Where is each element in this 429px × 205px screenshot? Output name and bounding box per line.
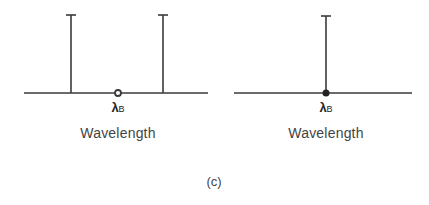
figure-caption: (c)	[194, 174, 234, 189]
left-lambda-label: λB	[98, 100, 138, 115]
filled-circle-marker	[323, 90, 330, 97]
right-axis-label: Wavelength	[276, 125, 376, 141]
lambda-symbol: λ	[319, 100, 326, 115]
lambda-subscript: B	[327, 104, 333, 114]
left-axis-label: Wavelength	[68, 125, 168, 141]
open-circle-marker	[115, 90, 121, 96]
lambda-subscript: B	[119, 104, 125, 114]
right-panel	[234, 16, 412, 97]
right-lambda-label: λB	[306, 100, 346, 115]
lambda-symbol: λ	[111, 100, 118, 115]
left-panel	[24, 15, 208, 96]
